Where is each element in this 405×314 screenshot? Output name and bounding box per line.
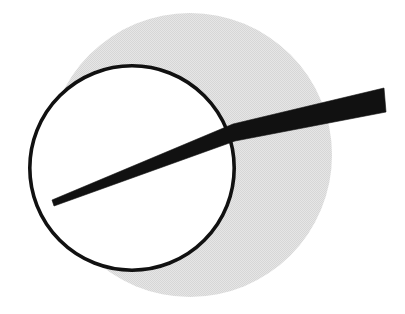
geometric-figure-svg	[0, 0, 405, 314]
figure-container	[0, 0, 405, 314]
